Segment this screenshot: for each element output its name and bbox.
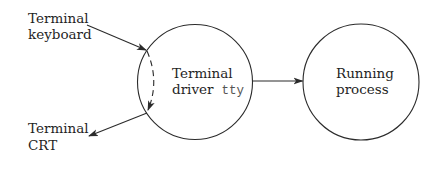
terminal-keyboard-label: Terminal keyboard [28,10,92,42]
tty-diagram: Terminal keyboard Terminal CRT Terminal … [0,0,439,169]
terminal-driver-node: Terminal driver tty [138,25,253,140]
running-process-node: Running process [303,24,419,140]
crt-label-line1: Terminal [28,120,89,136]
crt-label-line2: CRT [28,137,57,153]
process-label-line2: process [336,81,389,97]
arrow-keyboard-to-driver [87,25,146,50]
arrow-driver-to-crt [89,113,147,136]
driver-label-word: driver [172,81,214,97]
keyboard-label-line1: Terminal [28,10,89,26]
keyboard-label-line2: keyboard [28,26,92,42]
terminal-crt-label: Terminal CRT [28,120,89,153]
process-label-line1: Running [336,65,394,81]
driver-label-line2: driver tty [172,80,244,98]
driver-label-code: tty [221,84,244,98]
arrow-echo-dashed [147,51,154,110]
driver-label-line1: Terminal [172,65,233,81]
